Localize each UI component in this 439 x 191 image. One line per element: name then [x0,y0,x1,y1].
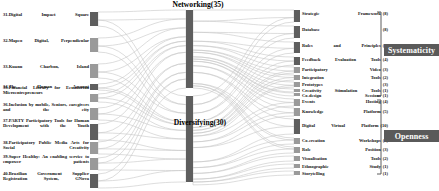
source-label: 36.Inclusion by mobile, Seniors, caregiv… [3,103,89,113]
sankey-link [98,171,186,188]
target-node [294,138,300,144]
target-label: Events Hosting(4) [302,100,388,105]
target-label-name: Visualisation Tools [302,157,381,162]
sankey-links [98,10,294,188]
target-label-name: Integration Tools [302,76,381,81]
target-label: Ethnographic Study(1) [302,165,388,170]
source-label: 32.Mapeo Digital, Perpendicular [3,39,89,44]
sankey-link [193,10,294,21]
target-label-count: (3) [383,68,388,73]
stage-node-diversifying [186,96,193,182]
target-node [294,42,300,53]
target-node [294,82,300,87]
source-node [90,158,98,170]
target-label: Digital Virtual Platform(10) [302,124,388,129]
target-node [294,26,300,38]
target-label-name: Role Position [302,148,381,153]
target-node [294,119,300,134]
source-node [90,174,98,188]
stage-label-networking: Networking(35) [128,1,268,9]
target-label-name: Rules and Principles [302,44,381,49]
target-label-name: Database [302,28,381,33]
source-node [90,142,98,154]
target-label-count: (5) [383,110,388,115]
target-label-count: (8) [383,28,388,33]
source-node [90,124,98,140]
target-label-name: Co-creation Workshops [302,139,381,144]
sankey-link [98,10,186,20]
target-label-count: (1) [383,165,388,170]
target-label-count: (2) [383,76,388,81]
target-node [294,156,300,161]
target-node [294,147,300,153]
source-label: 40.Brazilian Government Supplier Registr… [3,172,89,182]
target-node [294,164,300,168]
target-node [294,108,300,116]
target-node [294,99,300,106]
target-node [294,67,300,73]
source-node [90,64,98,78]
source-node [90,38,98,52]
target-label: Storytelling(1) [302,172,388,177]
target-label-name: Feedback Evaluation Tools [302,58,381,63]
source-node [90,12,98,26]
target-node [294,57,300,65]
target-label-name: Strategic Framework [302,12,381,17]
source-node [90,84,98,90]
target-label: Knowledge Platform(5) [302,110,388,115]
sankey-link [98,149,186,159]
target-node [294,171,300,175]
target-node [294,75,300,80]
target-label: Feedback Evaluation Tools(4) [302,58,388,63]
target-label-count: (3) [383,148,388,153]
target-label: Strategic Framework(8) [302,12,388,17]
sankey-link [193,21,294,33]
target-label-count: (4) [383,58,388,63]
target-label-name: Knowledge Platform [302,110,381,115]
sankey-link [98,159,186,170]
target-label: Co-creation Workshops(3) [302,139,388,144]
source-label: 38.Participatory Public Media Arts for S… [3,141,89,151]
target-label-count: (10) [381,124,389,129]
target-label: Participatory Video(3) [302,68,388,73]
target-node [294,93,300,96]
source-node [90,108,98,120]
target-node [294,89,300,92]
target-node [294,10,300,22]
category-box-systematicity: Systematicity [384,44,439,56]
source-label: 33.Kuanu Charbon, Island [3,65,89,70]
target-label-count: (2) [383,157,388,162]
target-label-name: Participatory Video [302,68,381,73]
source-label: 31.Digital Impact Square [3,13,89,18]
target-label-name: Ethnographic Study [302,165,381,170]
target-label-name: Digital Virtual Platform [302,124,379,129]
category-box-openness: Openness [384,130,439,142]
target-label-name: Events Hosting [302,100,381,105]
source-node [90,94,98,102]
target-label: Rules and Principles(7) [302,44,388,49]
target-label-name: Storytelling [302,172,381,177]
sankey-figure: 31.Digital Impact Square32.Mapeo Digital… [0,0,439,191]
target-label-count: (4) [383,100,388,105]
stage-node-networking [186,10,193,88]
target-label: Integration Tools(2) [302,76,388,81]
target-label: Database(8) [302,28,388,33]
stage-label-diversifying: Diversifying(30) [130,119,270,127]
target-label: Visualisation Tools(2) [302,157,388,162]
source-label: 35.Financial Library for Ecuadorian Micr… [3,86,89,96]
source-label: 39.Super Healthy: An enabling service to… [3,155,89,165]
target-label: Role Position(3) [302,148,388,153]
source-label: 37.PARTY Participatory Tools for Human D… [3,119,89,129]
target-label-count: (1) [383,172,388,177]
target-label-count: (8) [383,12,388,17]
